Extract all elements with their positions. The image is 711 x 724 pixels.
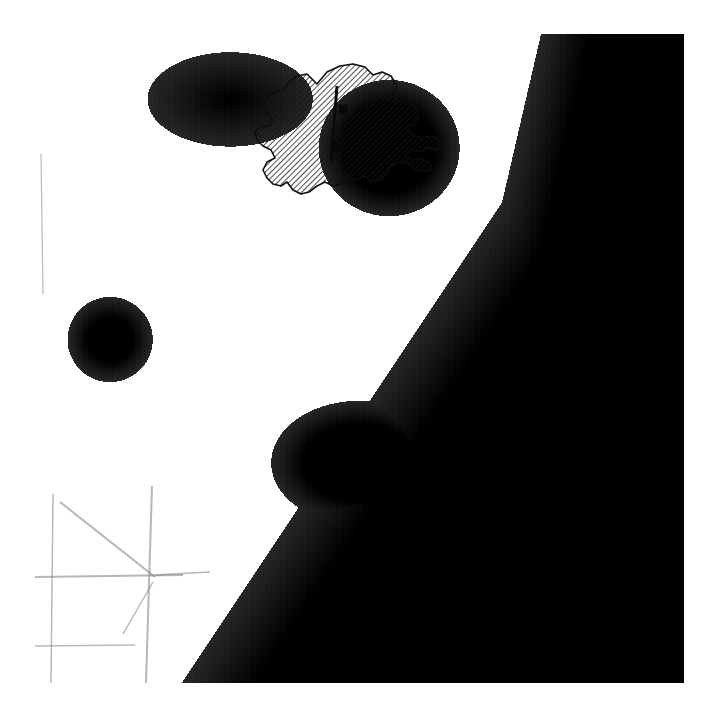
vent-marker-north: [339, 105, 348, 114]
survey-line-horizontal-b: [35, 645, 135, 646]
hatched-deposit-polygon[interactable]: [255, 64, 443, 194]
survey-line-plain-upper: [41, 154, 43, 294]
page-frame: Grayscale shaded-relief (hillshade) rast…: [0, 0, 711, 724]
map-vector-overlay: [35, 34, 684, 683]
linear-artifacts-group: [35, 154, 210, 683]
hillshade-map[interactable]: [35, 34, 684, 683]
survey-line-vertical-b: [51, 494, 53, 683]
survey-line-diagonal-a: [60, 502, 155, 577]
vent-marker-south: [333, 141, 343, 151]
